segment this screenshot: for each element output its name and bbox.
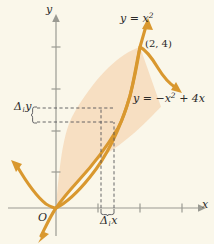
upward-parabola-equation-label: y = x2	[120, 12, 153, 24]
intersection-point-label: (2, 4)	[145, 39, 172, 49]
delta-x-variable: x	[111, 214, 117, 227]
area-between-curves-figure	[0, 0, 214, 244]
eq-up-equals: =	[130, 12, 139, 25]
origin-label: O	[38, 212, 47, 223]
eq-up-lhs: y	[120, 12, 126, 25]
downward-parabola-equation-label: y = −x2 + 4x	[133, 92, 205, 104]
eq-up-exponent: 2	[149, 11, 154, 20]
eq-dn-equals: =	[143, 92, 152, 105]
eq-dn-lhs: y	[133, 92, 139, 105]
delta-y-symbol: Δ	[14, 100, 22, 113]
eq-dn-exponent: 2	[171, 91, 176, 100]
delta-x-label: Δix	[100, 215, 117, 228]
y-axis-label: y	[46, 4, 52, 15]
delta-y-variable: y	[25, 100, 31, 113]
x-axis-label: x	[202, 199, 208, 210]
delta-x-symbol: Δ	[100, 214, 108, 227]
delta-y-label: Δiy	[14, 101, 31, 114]
eq-dn-tail: + 4x	[179, 92, 205, 105]
eq-dn-base: −x	[155, 92, 170, 105]
